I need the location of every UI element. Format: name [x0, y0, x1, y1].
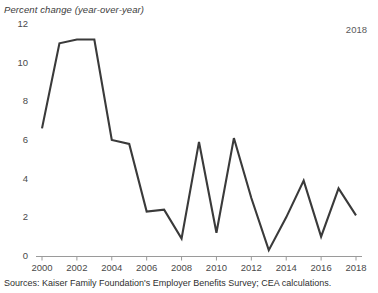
chart-figure: Percent change (year-over-year) 2018 121…	[0, 0, 378, 293]
y-tick-label: 2	[2, 211, 28, 222]
plot-area	[0, 0, 378, 293]
y-tick-label: 4	[2, 173, 28, 184]
data-line-percent-change	[42, 39, 356, 250]
y-tick-label: 10	[2, 57, 28, 68]
y-tick-label: 0	[2, 250, 28, 261]
x-axis-ticks	[42, 257, 356, 261]
axis-group	[36, 257, 362, 261]
y-tick-label: 12	[2, 18, 28, 29]
y-tick-label: 8	[2, 95, 28, 106]
x-tick-label: 2018	[336, 262, 376, 273]
data-series-group	[42, 39, 356, 250]
y-tick-label: 6	[2, 134, 28, 145]
source-note: Sources: Kaiser Family Foundation's Empl…	[4, 278, 331, 288]
